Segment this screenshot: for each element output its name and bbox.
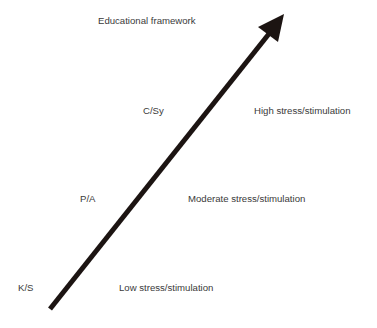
level-high-description: High stress/stimulation bbox=[254, 106, 351, 116]
level-low-code: K/S bbox=[18, 283, 33, 293]
level-low-description: Low stress/stimulation bbox=[119, 283, 213, 293]
progression-arrow bbox=[0, 0, 377, 328]
arrow-head-icon bbox=[258, 14, 284, 42]
arrow-shaft bbox=[50, 30, 272, 309]
level-high-code: C/Sy bbox=[143, 106, 164, 116]
level-moderate-description: Moderate stress/stimulation bbox=[188, 194, 305, 204]
level-moderate-code: P/A bbox=[80, 194, 95, 204]
diagram-title: Educational framework bbox=[98, 16, 196, 26]
